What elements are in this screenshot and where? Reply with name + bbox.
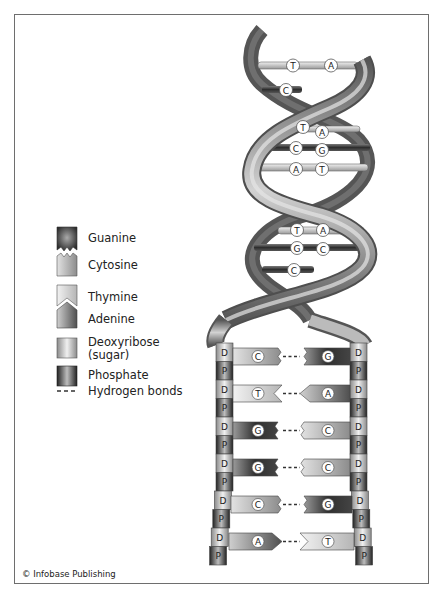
guanine-base: G [304, 496, 352, 513]
svg-text:C: C [293, 144, 299, 154]
svg-text:T: T [254, 389, 261, 399]
svg-text:D: D [355, 385, 362, 395]
legend-item-phosphate: Phosphate [88, 369, 148, 382]
deoxyribose-block: D [216, 454, 233, 473]
svg-text:P: P [356, 440, 362, 450]
ladder-right-strand: DPDPDPDPDPDP [350, 343, 373, 565]
svg-text:P: P [222, 477, 228, 487]
double-helix: T A C T A C G A T T [226, 30, 370, 320]
svg-text:T: T [318, 165, 325, 175]
phosphate-block: P [216, 362, 233, 381]
ladder-left-strand: DPDPDPDPDPDP [210, 343, 233, 565]
svg-text:A: A [328, 61, 335, 71]
svg-text:P: P [356, 477, 362, 487]
svg-text:C: C [325, 463, 331, 473]
svg-text:D: D [219, 496, 226, 506]
deoxyribose-block: D [216, 343, 233, 362]
svg-text:C: C [291, 266, 297, 276]
dna-diagram: T A C T A C G A T T [0, 0, 445, 598]
svg-text:C: C [255, 352, 261, 362]
phosphate-block: P [213, 510, 230, 529]
svg-text:C: C [283, 86, 289, 96]
thymine-base: T [233, 385, 282, 402]
deoxyribose-block: D [216, 417, 233, 436]
deoxyribose-block: D [350, 380, 367, 399]
legend-label: Thymine [88, 291, 138, 304]
svg-text:G: G [319, 146, 326, 156]
svg-text:T: T [289, 61, 296, 71]
svg-text:P: P [359, 514, 365, 524]
guanine-base: G [304, 348, 350, 365]
phosphate-block: P [350, 399, 367, 418]
svg-text:G: G [294, 244, 301, 254]
svg-text:D: D [221, 459, 228, 469]
helix-base-pair-8: C [288, 264, 301, 277]
legend-item-adenine: Adenine [88, 313, 135, 326]
svg-text:G: G [325, 352, 332, 362]
svg-text:A: A [319, 128, 326, 138]
phosphate-block: P [353, 510, 370, 529]
guanine-base: G [233, 459, 278, 476]
phosphate-block: P [216, 473, 233, 492]
base-pair-rung: TA [233, 385, 350, 402]
svg-text:C: C [320, 245, 326, 255]
base-pair-rung: AT [229, 533, 354, 550]
helix-base-pair-2: C [280, 84, 293, 97]
svg-text:D: D [355, 422, 362, 432]
deoxyribose-block: D [211, 528, 228, 547]
phosphate-block: P [216, 399, 233, 418]
svg-text:C: C [325, 426, 331, 436]
legend-label: Adenine [88, 313, 135, 326]
svg-text:A: A [325, 389, 332, 399]
svg-text:A: A [255, 537, 262, 547]
svg-text:A: A [320, 226, 327, 236]
legend-item-deoxyribose: Deoxyribose (sugar) [88, 336, 160, 362]
thymine-base: T [300, 533, 354, 550]
svg-text:G: G [255, 463, 262, 473]
cytosine-base: C [301, 459, 350, 476]
svg-text:D: D [221, 385, 228, 395]
phosphate-block: P [216, 436, 233, 455]
svg-text:P: P [215, 551, 221, 561]
deoxyribose-block: D [350, 417, 367, 436]
deoxyribose-block-icon [57, 338, 77, 358]
svg-text:D: D [221, 422, 228, 432]
cytosine-base: C [233, 348, 281, 365]
phosphate-block-icon [57, 366, 77, 386]
svg-text:D: D [356, 496, 363, 506]
svg-text:D: D [355, 348, 362, 358]
svg-text:T: T [299, 123, 306, 133]
guanine-base: G [233, 422, 278, 439]
legend-label: Guanine [88, 232, 136, 245]
phosphate-block: P [350, 362, 367, 381]
svg-text:D: D [216, 533, 223, 543]
legend-label: Hydrogen bonds [88, 385, 183, 398]
deoxyribose-block: D [216, 380, 233, 399]
deoxyribose-block: D [214, 491, 231, 510]
cytosine-base: C [301, 422, 350, 439]
adenine-base: A [229, 533, 282, 550]
svg-text:D: D [355, 459, 362, 469]
svg-text:P: P [219, 514, 225, 524]
base-pair-rung: GC [233, 459, 350, 476]
copyright-credit: © Infobase Publishing [22, 569, 116, 579]
phosphate-block: P [350, 473, 367, 492]
svg-text:T: T [293, 226, 300, 236]
svg-text:G: G [255, 426, 262, 436]
svg-text:G: G [325, 500, 332, 510]
deoxyribose-block: D [354, 528, 371, 547]
phosphate-block: P [210, 547, 227, 566]
ladder-rungs: CGTAGCGCCGAT [229, 348, 354, 550]
phosphate-block: P [356, 547, 373, 566]
legend-item-guanine: Guanine [88, 232, 136, 245]
svg-text:P: P [361, 551, 367, 561]
legend-icons [57, 227, 78, 391]
svg-text:P: P [222, 366, 228, 376]
legend-label: Cytosine [88, 259, 138, 272]
svg-text:A: A [293, 165, 300, 175]
deoxyribose-block: D [350, 343, 367, 362]
deoxyribose-block: D [350, 454, 367, 473]
svg-text:D: D [359, 533, 366, 543]
legend-item-hydrogen-bonds: Hydrogen bonds [88, 385, 183, 398]
svg-text:P: P [222, 440, 228, 450]
